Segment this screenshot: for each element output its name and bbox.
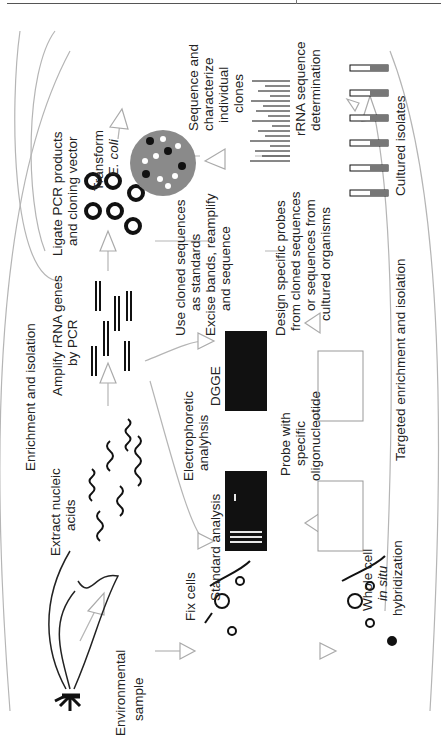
label-enrichment: Enrichment and isolation (23, 323, 38, 471)
arrowhead-transform-sequence (205, 149, 225, 169)
label-extract-2: acids (63, 499, 78, 531)
arrowhead-extract-amplify (100, 363, 116, 383)
arrowhead-env-fix (180, 643, 195, 659)
label-design-1: Design specific probes (273, 200, 288, 336)
label-probe-2: specific (293, 421, 308, 466)
standard-blot (318, 481, 363, 551)
standard-gel (225, 471, 267, 551)
arrowhead-fix-whole (320, 643, 336, 659)
label-probe-1: Probe with (278, 412, 293, 476)
label-design-3: or sequences from (303, 199, 318, 311)
label-rrna-1: rRNA sequence (293, 41, 308, 136)
nucleic-acids-illustration (90, 419, 142, 541)
label-electro-2: analyhsis (196, 414, 211, 471)
label-ligate-2: and cloning vector (65, 136, 80, 246)
arrowhead-amplify-ligate (100, 231, 116, 251)
pcr-products-illustration (92, 281, 131, 376)
label-electro-1: Electrophoretic (181, 391, 196, 481)
label-seq-3: individual (216, 67, 231, 123)
tube (350, 190, 388, 196)
diagram-svg: Environmental sample Extract nucleic aci… (0, 0, 441, 751)
tube (350, 165, 388, 171)
dgge-gel (225, 331, 267, 411)
label-seq-4: clones (231, 74, 246, 113)
label-excise-1: Excise bands, reamplify (203, 193, 218, 336)
label-standard: Standard analysis (208, 493, 223, 601)
label-use-cloned-2: as standards (188, 233, 203, 311)
label-extract-1: Extract nucleic (48, 468, 63, 556)
label-seq-2: characterize (201, 57, 216, 131)
label-probe-3: oligonucleotide (308, 391, 323, 481)
culture-tubes (350, 65, 388, 196)
label-whole-cell-3: hybridization (390, 540, 405, 616)
label-design-4: cultured organisms (318, 207, 333, 321)
enrichment-arrowhead (347, 99, 359, 111)
diagram-stage: Environmental sample Extract nucleic aci… (0, 0, 441, 751)
label-rrna-2: determination (308, 49, 323, 131)
label-design-2: from cloned sequences (288, 191, 303, 331)
label-use-cloned-1: Use cloned sequences (173, 199, 188, 336)
tube (350, 115, 388, 121)
arrow-amplify-dgge (145, 341, 205, 361)
tube (350, 140, 388, 146)
label-amplify-1: Amplify rRNA genes (50, 275, 65, 396)
label-transform-1: Transform (91, 130, 106, 191)
label-ligate-1: Ligate PCR products (50, 131, 65, 256)
label-whole-cell-1: Whole cell (360, 549, 375, 611)
label-transform-2: E. coli (106, 138, 121, 176)
environmental-sample-illustration (49, 551, 118, 711)
petri-plate (130, 130, 196, 196)
tube (350, 90, 388, 96)
label-env-sample-1: Environmental (113, 650, 128, 736)
label-dgge: DGGE (208, 366, 223, 406)
label-excise-2: and sequence (218, 226, 233, 311)
dgge-blot (318, 351, 363, 421)
arrowhead-env-extract (88, 593, 104, 615)
label-targeted: Targeted enrichment and isolation (393, 258, 408, 461)
label-cultured: Cultured isolates (393, 95, 408, 196)
label-whole-cell-2: in situ (375, 565, 390, 601)
sequence-chromatogram (250, 81, 290, 161)
label-env-sample-2: sample (131, 677, 146, 721)
label-seq-1: Sequence and (186, 44, 201, 131)
arrowhead-ligate-transform (110, 109, 128, 129)
label-fix-cells: Fix cells (183, 572, 198, 621)
targeted-arc (370, 96, 391, 611)
label-amplify-2: by PCR (65, 319, 80, 366)
tube (350, 65, 388, 71)
